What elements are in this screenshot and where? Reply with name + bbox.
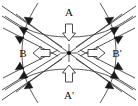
label-B: B <box>19 47 26 59</box>
block-arrow-up-icon <box>63 65 76 82</box>
label-A: A <box>65 6 73 18</box>
label-B-prime: B' <box>112 47 121 59</box>
stagnation-point-marker <box>60 44 78 62</box>
block-arrow-top <box>63 24 76 41</box>
block-arrow-down-icon <box>63 24 76 41</box>
block-arrow-left <box>33 47 50 60</box>
flow-diagram-figure: A A' B B' <box>0 0 138 106</box>
streamline-ul-1 <box>2 6 62 47</box>
flow-diagram-canvas: A A' B B' <box>0 0 138 106</box>
block-arrow-bottom <box>63 65 76 82</box>
streamline-lr-1 <box>76 59 136 100</box>
center-dot-icon <box>67 51 71 55</box>
block-arrow-left-icon <box>33 47 50 60</box>
streamline-ll-1 <box>2 59 62 100</box>
streamline-ur-1 <box>76 6 136 47</box>
block-arrow-right-icon <box>88 47 105 60</box>
label-A-prime: A' <box>64 89 74 101</box>
block-arrow-right <box>88 47 105 60</box>
